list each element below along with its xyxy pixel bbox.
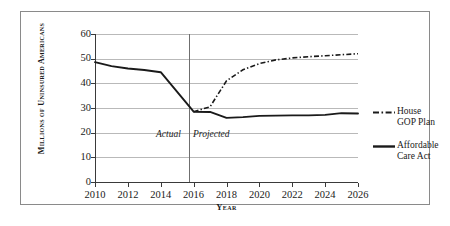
chart-legend: House GOP Plan Affordable Care Act [373, 106, 449, 174]
legend-item-affordable-care-act: Affordable Care Act [373, 140, 449, 162]
series-layer [21, 12, 431, 206]
legend-item-house-gop-plan: House GOP Plan [373, 106, 449, 128]
chart-frame: 60 50 40 30 20 10 0 2010 2012 2014 2016 … [20, 11, 430, 205]
legend-swatch-solid-icon [373, 145, 395, 148]
legend-swatch-dash-dot-icon [373, 111, 395, 114]
legend-label-house-gop-plan-line2: GOP Plan [397, 117, 449, 128]
series-line-house-gop-plan [194, 54, 358, 112]
legend-label-affordable-care-act-line1: Affordable [397, 140, 449, 151]
legend-label-affordable-care-act-line2: Care Act [397, 151, 449, 162]
series-line-affordable-care-act [95, 62, 358, 118]
chart-figure: 60 50 40 30 20 10 0 2010 2012 2014 2016 … [0, 0, 450, 226]
legend-label-house-gop-plan-line1: House [397, 106, 449, 117]
